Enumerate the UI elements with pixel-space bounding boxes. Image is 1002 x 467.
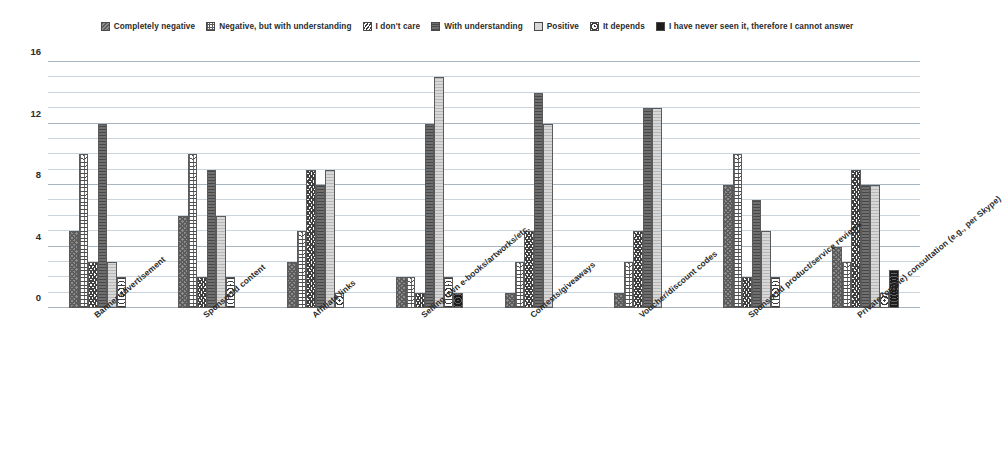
bar[interactable] [434, 77, 444, 308]
legend-item[interactable]: It depends [590, 22, 645, 31]
bar[interactable] [325, 170, 335, 308]
bar[interactable] [742, 277, 752, 308]
black-swatch [656, 22, 665, 31]
bar[interactable] [188, 154, 198, 308]
bar-fill [842, 262, 852, 308]
bar-fill [69, 231, 79, 308]
chart-legend: Completely negativeNegative, but with un… [0, 22, 954, 31]
bar[interactable] [178, 216, 188, 308]
bar[interactable] [624, 262, 634, 308]
bar-fill [752, 200, 762, 308]
bar-fill [870, 185, 880, 308]
bar-fill [534, 93, 544, 308]
crosshatch-swatch [206, 22, 215, 31]
zigzag-swatch [363, 22, 372, 31]
bar-fill [851, 170, 861, 308]
dotted-swatch [590, 22, 599, 31]
y-axis-tick-label: 0 [36, 292, 41, 303]
bar[interactable] [197, 277, 207, 308]
bar-fill [188, 154, 198, 308]
bar[interactable] [534, 93, 544, 308]
bar[interactable] [98, 124, 108, 309]
legend-item-label: I don't care [376, 22, 421, 31]
bar[interactable] [306, 170, 316, 308]
hatch-diagonal-swatch [101, 22, 110, 31]
bar[interactable] [316, 185, 326, 308]
bar-fill [742, 277, 752, 308]
y-axis-tick-label: 8 [36, 169, 41, 180]
bar[interactable] [88, 262, 98, 308]
bar[interactable] [297, 231, 307, 308]
bar[interactable] [515, 262, 525, 308]
bar-fill [543, 124, 553, 309]
legend-item[interactable]: I don't care [363, 22, 421, 31]
bar-fill [643, 108, 653, 308]
bar-groups [48, 62, 920, 308]
bar-fill [287, 262, 297, 308]
bar[interactable] [870, 185, 880, 308]
bar[interactable] [287, 262, 297, 308]
bar-fill [652, 108, 662, 308]
legend-item-label: I have never seen it, therefore I cannot… [669, 22, 853, 31]
bar-fill [505, 293, 515, 308]
bar-fill [297, 231, 307, 308]
bar-fill [98, 124, 108, 309]
y-axis-tick-label: 4 [36, 230, 41, 241]
bar-fill [207, 170, 217, 308]
bar-fill [861, 185, 871, 308]
bar[interactable] [652, 108, 662, 308]
bar-fill [88, 262, 98, 308]
bar-fill [624, 262, 634, 308]
bar[interactable] [643, 108, 653, 308]
bar-fill [79, 154, 89, 308]
bar[interactable] [861, 185, 871, 308]
bar-fill [733, 154, 743, 308]
bar[interactable] [633, 231, 643, 308]
bar-fill [434, 77, 444, 308]
bar-fill [633, 231, 643, 308]
dark-gray-swatch [431, 22, 440, 31]
bar[interactable] [733, 154, 743, 308]
bar[interactable] [207, 170, 217, 308]
legend-item-label: Positive [547, 22, 579, 31]
bar[interactable] [425, 124, 435, 309]
bar[interactable] [842, 262, 852, 308]
bar-fill [524, 231, 534, 308]
legend-item-label: Completely negative [114, 22, 196, 31]
bar[interactable] [723, 185, 733, 308]
bar-group [266, 62, 375, 308]
bar-fill [515, 262, 525, 308]
bar-fill [306, 170, 316, 308]
bar[interactable] [614, 293, 624, 308]
bar-fill [415, 293, 425, 308]
legend-item-label: Negative, but with understanding [219, 22, 351, 31]
bar-fill [723, 185, 733, 308]
bar-fill [325, 170, 335, 308]
bar[interactable] [851, 170, 861, 308]
legend-item[interactable]: Positive [534, 22, 579, 31]
bar[interactable] [415, 293, 425, 308]
plot-area: 0481216 [48, 62, 920, 308]
light-gray-swatch [534, 22, 543, 31]
legend-item[interactable]: I have never seen it, therefore I cannot… [656, 22, 853, 31]
bar[interactable] [396, 277, 406, 308]
bar-fill [178, 216, 188, 308]
legend-item[interactable]: Completely negative [101, 22, 196, 31]
bar[interactable] [79, 154, 89, 308]
bar-fill [832, 247, 842, 309]
bar[interactable] [406, 277, 416, 308]
bar[interactable] [69, 231, 79, 308]
legend-item[interactable]: Negative, but with understanding [206, 22, 351, 31]
bar[interactable] [524, 231, 534, 308]
legend-item-label: With understanding [444, 22, 523, 31]
bar-fill [425, 124, 435, 309]
x-axis-labels: Banner advertisementSponsored contentAff… [48, 312, 920, 462]
bar[interactable] [543, 124, 553, 309]
bar[interactable] [752, 200, 762, 308]
legend-item-label: It depends [603, 22, 645, 31]
legend-item[interactable]: With understanding [431, 22, 523, 31]
bar-fill [406, 277, 416, 308]
bar[interactable] [505, 293, 515, 308]
bar[interactable] [832, 247, 842, 309]
